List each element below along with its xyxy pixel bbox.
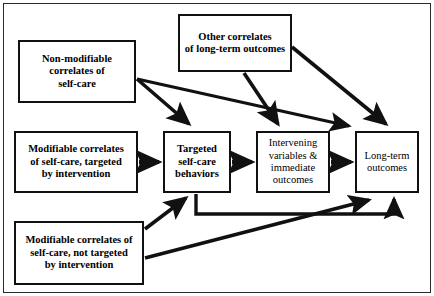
node-modifiable-correlates-not-targeted[interactable]: Modifiable correlates ofself-care, not t… [14, 221, 144, 285]
node-label: Targetedself-carebehaviors [172, 143, 222, 180]
edge-modifiablenottargeted-to-longterm [145, 200, 369, 258]
node-label: Other correlatesof long-term outcomes [182, 31, 288, 56]
edge-targeted-to-longterm-orthogonal [196, 194, 394, 214]
node-label: Long-termoutcomes [362, 150, 413, 175]
node-intervening-variables[interactable]: Interveningvariables &immediateoutcomes [256, 131, 330, 193]
node-other-correlates[interactable]: Other correlatesof long-term outcomes [178, 14, 292, 72]
edge-modifiablenottargeted-to-targeted [145, 198, 186, 229]
node-targeted-self-care-behaviors[interactable]: Targetedself-carebehaviors [163, 131, 231, 193]
node-label: Interveningvariables &immediateoutcomes [266, 137, 321, 187]
node-non-modifiable-correlates[interactable]: Non-modifiablecorrelates ofself-care [18, 40, 136, 103]
node-long-term-outcomes[interactable]: Long-termoutcomes [355, 131, 419, 193]
edge-nonmodifiable-to-longterm [137, 79, 349, 126]
node-label: Modifiable correlatesof self-care, targe… [25, 143, 127, 180]
node-label: Non-modifiablecorrelates ofself-care [39, 53, 115, 90]
edge-othercorrelates-to-intervening [244, 73, 278, 124]
edge-othercorrelates-to-longterm [292, 47, 386, 124]
node-label: Modifiable correlates ofself-care, not t… [22, 234, 135, 271]
diagram-canvas: Non-modifiablecorrelates ofself-care Oth… [0, 0, 434, 296]
node-modifiable-correlates-targeted[interactable]: Modifiable correlatesof self-care, targe… [14, 131, 138, 193]
